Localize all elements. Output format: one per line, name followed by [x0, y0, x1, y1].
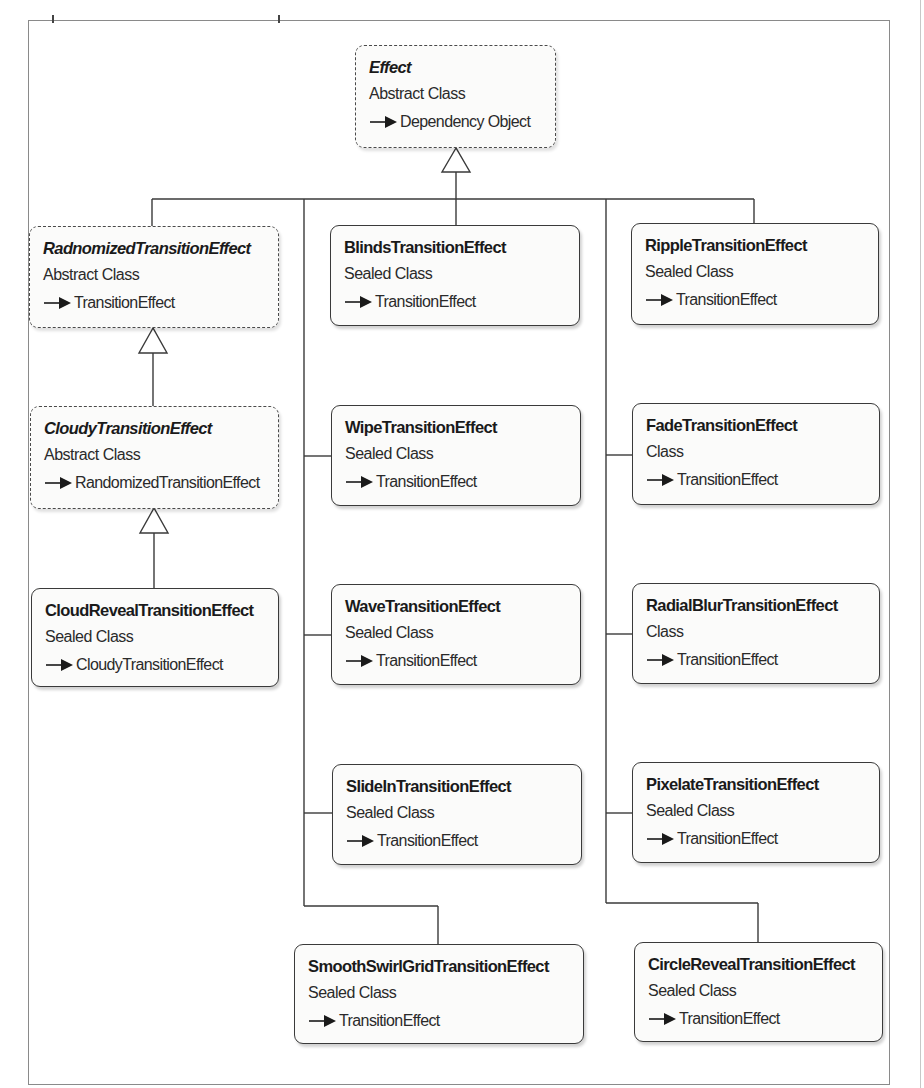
base-class-name: TransitionEffect: [376, 469, 477, 495]
inheritance-triangle-icon: [139, 328, 167, 353]
class-name: SlideInTransitionEffect: [346, 774, 569, 798]
class-box-circle-reveal-transition-effect[interactable]: CircleRevealTransitionEffect Sealed Clas…: [634, 942, 883, 1042]
derives-arrow-icon: [646, 653, 676, 667]
base-class-name: TransitionEffect: [679, 1006, 780, 1032]
base-class-name: TransitionEffect: [376, 648, 477, 674]
class-name: RadnomizedTransitionEffect: [43, 236, 266, 260]
base-class-name: TransitionEffect: [377, 828, 478, 854]
base-class-row: RandomizedTransitionEffect: [44, 470, 266, 496]
class-kind: Sealed Class: [345, 618, 568, 648]
class-box-cloud-reveal-transition-effect[interactable]: CloudRevealTransitionEffect Sealed Class…: [31, 588, 279, 687]
base-class-row: CloudyTransitionEffect: [45, 652, 266, 678]
base-class-name: TransitionEffect: [375, 289, 476, 315]
base-class-row: TransitionEffect: [646, 467, 867, 493]
class-box-wave-transition-effect[interactable]: WaveTransitionEffect Sealed Class Transi…: [331, 584, 581, 685]
base-class-row: TransitionEffect: [344, 289, 567, 315]
class-name: RadialBlurTransitionEffect: [646, 593, 867, 617]
class-box-ripple-transition-effect[interactable]: RippleTransitionEffect Sealed Class Tran…: [631, 223, 879, 325]
class-box-radnomized-transition-effect[interactable]: RadnomizedTransitionEffect Abstract Clas…: [29, 226, 279, 328]
class-kind: Class: [646, 617, 867, 647]
derives-arrow-icon: [44, 476, 74, 490]
base-class-name: TransitionEffect: [677, 467, 778, 493]
class-kind: Sealed Class: [345, 439, 568, 469]
class-kind: Sealed Class: [645, 257, 866, 287]
class-name: CloudyTransitionEffect: [44, 416, 266, 440]
class-box-pixelate-transition-effect[interactable]: PixelateTransitionEffect Sealed Class Tr…: [632, 762, 880, 863]
base-class-row: TransitionEffect: [308, 1008, 571, 1034]
base-class-row: TransitionEffect: [345, 469, 568, 495]
class-name: SmoothSwirlGridTransitionEffect: [308, 954, 571, 978]
class-name: CloudRevealTransitionEffect: [45, 598, 266, 622]
class-name: CircleRevealTransitionEffect: [648, 952, 870, 976]
derives-arrow-icon: [344, 295, 374, 309]
class-name: WipeTransitionEffect: [345, 415, 568, 439]
base-class-row: TransitionEffect: [43, 290, 266, 316]
derives-arrow-icon: [346, 834, 376, 848]
class-box-effect[interactable]: Effect Abstract Class Dependency Object: [355, 45, 556, 148]
class-box-wipe-transition-effect[interactable]: WipeTransitionEffect Sealed Class Transi…: [331, 405, 581, 506]
base-class-row: TransitionEffect: [646, 647, 867, 673]
class-name: WaveTransitionEffect: [345, 594, 568, 618]
connector-lines: [0, 0, 924, 1088]
class-name: RippleTransitionEffect: [645, 233, 866, 257]
class-box-blinds-transition-effect[interactable]: BlindsTransitionEffect Sealed Class Tran…: [330, 225, 580, 326]
class-name: BlindsTransitionEffect: [344, 235, 567, 259]
class-kind: Class: [646, 437, 867, 467]
class-kind: Sealed Class: [648, 976, 870, 1006]
class-kind: Sealed Class: [45, 622, 266, 652]
class-kind: Sealed Class: [344, 259, 567, 289]
derives-arrow-icon: [645, 293, 675, 307]
base-class-row: TransitionEffect: [345, 648, 568, 674]
class-kind: Sealed Class: [646, 796, 867, 826]
base-class-row: Dependency Object: [369, 109, 543, 135]
class-name: Effect: [369, 55, 543, 79]
base-class-name: RandomizedTransitionEffect: [75, 470, 260, 496]
derives-arrow-icon: [646, 832, 676, 846]
base-class-row: TransitionEffect: [346, 828, 569, 854]
base-class-row: TransitionEffect: [646, 826, 867, 852]
base-class-name: CloudyTransitionEffect: [76, 652, 223, 678]
derives-arrow-icon: [45, 658, 75, 672]
base-class-name: TransitionEffect: [676, 287, 777, 313]
base-class-row: TransitionEffect: [648, 1006, 870, 1032]
class-kind: Abstract Class: [369, 79, 543, 109]
base-class-name: TransitionEffect: [677, 826, 778, 852]
base-class-name: TransitionEffect: [74, 290, 175, 316]
derives-arrow-icon: [308, 1014, 338, 1028]
derives-arrow-icon: [43, 296, 73, 310]
class-box-slide-in-transition-effect[interactable]: SlideInTransitionEffect Sealed Class Tra…: [332, 764, 582, 865]
base-class-name: Dependency Object: [400, 109, 530, 135]
class-box-radial-blur-transition-effect[interactable]: RadialBlurTransitionEffect Class Transit…: [632, 583, 880, 684]
base-class-name: TransitionEffect: [677, 647, 778, 673]
class-box-fade-transition-effect[interactable]: FadeTransitionEffect Class TransitionEff…: [632, 403, 880, 505]
class-kind: Sealed Class: [308, 978, 571, 1008]
base-class-row: TransitionEffect: [645, 287, 866, 313]
derives-arrow-icon: [345, 654, 375, 668]
class-kind: Sealed Class: [346, 798, 569, 828]
class-box-cloudy-transition-effect[interactable]: CloudyTransitionEffect Abstract Class Ra…: [30, 406, 279, 509]
derives-arrow-icon: [646, 473, 676, 487]
derives-arrow-icon: [369, 115, 399, 129]
derives-arrow-icon: [345, 475, 375, 489]
inheritance-triangle-icon: [140, 508, 168, 533]
inheritance-triangle-icon: [442, 148, 470, 172]
class-kind: Abstract Class: [44, 440, 266, 470]
class-box-smooth-swirl-grid-transition-effect[interactable]: SmoothSwirlGridTransitionEffect Sealed C…: [294, 944, 584, 1044]
class-name: PixelateTransitionEffect: [646, 772, 867, 796]
class-kind: Abstract Class: [43, 260, 266, 290]
base-class-name: TransitionEffect: [339, 1008, 440, 1034]
derives-arrow-icon: [648, 1012, 678, 1026]
class-name: FadeTransitionEffect: [646, 413, 867, 437]
